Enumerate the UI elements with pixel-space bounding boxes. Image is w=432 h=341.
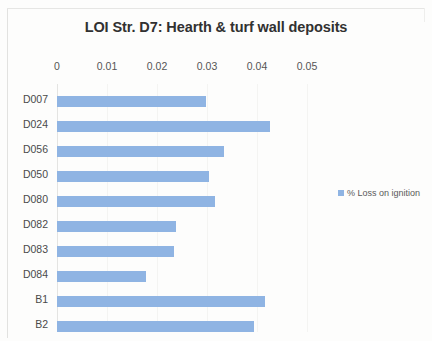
legend-label: % Loss on ignition <box>347 188 420 198</box>
bar-row: D056 <box>0 139 432 164</box>
bar-chart: LOI Str. D7: Hearth & turf wall deposits… <box>0 0 432 341</box>
bar <box>57 121 270 132</box>
bar-row: D050 <box>0 164 432 189</box>
x-tick-label: 0.01 <box>97 60 117 72</box>
bar <box>57 271 146 282</box>
x-tick-label: 0.03 <box>197 60 217 72</box>
bar-row: D007 <box>0 89 432 114</box>
category-label: D080 <box>0 193 48 205</box>
legend-swatch-icon <box>338 190 344 196</box>
bar-row: D084 <box>0 264 432 289</box>
bar-row: D024 <box>0 114 432 139</box>
category-label: D083 <box>0 243 48 255</box>
x-tick-label: 0.04 <box>247 60 267 72</box>
bar-row: D082 <box>0 214 432 239</box>
x-tick-label: 0 <box>54 60 60 72</box>
plot-area: D007D024D056D050D080D082D083D084B1B2 <box>0 84 432 334</box>
x-tick-label: 0.02 <box>147 60 167 72</box>
category-label: D024 <box>0 118 48 130</box>
category-label: D084 <box>0 268 48 280</box>
category-label: D082 <box>0 218 48 230</box>
bar <box>57 96 206 107</box>
bar <box>57 196 215 207</box>
category-label: D056 <box>0 143 48 155</box>
bar <box>57 146 224 157</box>
bar <box>57 221 176 232</box>
bar <box>57 246 174 257</box>
category-label: D007 <box>0 93 48 105</box>
bar-row: B1 <box>0 289 432 314</box>
x-axis-tick-labels: 00.010.020.030.040.05 <box>0 60 432 74</box>
x-tick-label: 0.05 <box>297 60 317 72</box>
category-label: B1 <box>0 293 48 305</box>
bar <box>57 296 265 307</box>
chart-title: LOI Str. D7: Hearth & turf wall deposits <box>0 19 432 35</box>
category-label: D050 <box>0 168 48 180</box>
category-label: B2 <box>0 318 48 330</box>
bar <box>57 321 254 332</box>
bar-row: B2 <box>0 314 432 339</box>
bar <box>57 171 209 182</box>
chart-legend: % Loss on ignition <box>338 188 420 198</box>
bar-row: D083 <box>0 239 432 264</box>
